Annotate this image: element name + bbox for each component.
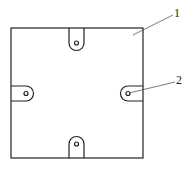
callout-label-2: 2 bbox=[176, 74, 182, 86]
tab-hole-top bbox=[75, 41, 79, 45]
leader-line-1 bbox=[133, 15, 173, 35]
mounting-tab-left bbox=[11, 86, 34, 101]
leader-line-2 bbox=[129, 82, 175, 93]
mounting-tab-top bbox=[69, 28, 84, 51]
tab-hole-bottom bbox=[75, 142, 79, 146]
mounting-tab-bottom bbox=[69, 137, 84, 159]
tab-hole-right bbox=[126, 92, 130, 96]
mounting-tab-right bbox=[121, 86, 143, 101]
tab-hole-left bbox=[24, 92, 28, 96]
square-plate bbox=[11, 28, 143, 158]
callout-label-1: 1 bbox=[174, 7, 180, 19]
plate-drawing bbox=[0, 0, 193, 173]
